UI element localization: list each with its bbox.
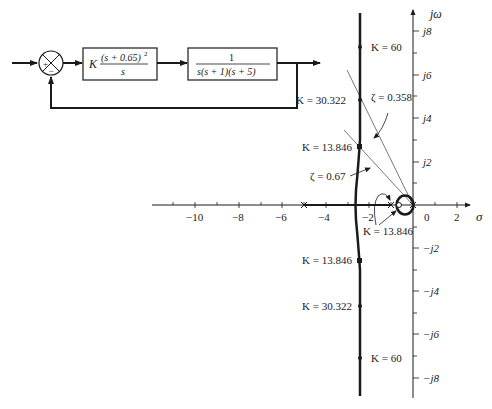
k60-upper-label: K = 60 xyxy=(371,41,402,53)
zeta-0358-label: ζ = 0.358 xyxy=(371,91,413,104)
jw-label: jω xyxy=(428,7,442,21)
double-zero-marker xyxy=(397,203,402,208)
svg-text:−j6: −j6 xyxy=(423,328,439,340)
k13-upper-label: K = 13.846 xyxy=(302,141,352,153)
k13-lower-label: K = 13.846 xyxy=(302,254,352,266)
svg-text:−4: −4 xyxy=(318,211,330,223)
sigma-label: σ xyxy=(476,209,483,224)
zeta-067-line xyxy=(344,130,413,205)
plus-sign: + xyxy=(43,59,48,69)
root-locus-figure: + − K (s + 0.65) 2 s 1 s(s + 1)(s + 5) xyxy=(0,0,492,409)
k30-upper-label: K = 30.322 xyxy=(296,94,346,106)
minus-sign: − xyxy=(49,66,54,76)
svg-text:j6: j6 xyxy=(421,69,432,81)
controller-exponent: 2 xyxy=(144,50,148,58)
block-diagram: + − K (s + 0.65) 2 s 1 s(s + 1)(s + 5) xyxy=(12,48,320,108)
svg-text:−8: −8 xyxy=(232,211,244,223)
k30-lower-label: K = 30.322 xyxy=(302,300,352,312)
svg-text:−2: −2 xyxy=(362,211,374,223)
k60-lower-label: K = 60 xyxy=(371,352,402,364)
svg-text:−j2: −j2 xyxy=(423,242,439,254)
svg-text:j4: j4 xyxy=(421,112,432,124)
zeta-067-label: ζ = 0.67 xyxy=(310,170,346,183)
sigma-tick-labels: −10 −8 −6 −4 −2 0 2 σ xyxy=(186,209,483,224)
svg-text:−j8: −j8 xyxy=(423,372,439,384)
plant-block: 1 s(s + 1)(s + 5) xyxy=(188,48,277,80)
jw-tick-labels: jω j8 j6 j4 j2 −j2 −j4 −j6 −j8 xyxy=(421,7,442,384)
k13-real-axis-label: K = 13.846 xyxy=(363,225,413,237)
svg-text:2: 2 xyxy=(454,211,460,223)
controller-gain: K xyxy=(88,57,98,71)
plant-denominator: s(s + 1)(s + 5) xyxy=(197,66,256,78)
summing-junction: + − xyxy=(39,51,63,76)
controller-denominator: s xyxy=(121,66,125,77)
svg-text:j2: j2 xyxy=(421,156,432,168)
svg-text:−6: −6 xyxy=(275,211,287,223)
svg-text:−10: −10 xyxy=(186,211,204,223)
svg-text:0: 0 xyxy=(424,211,430,223)
controller-block: K (s + 0.65) 2 s xyxy=(83,48,157,80)
controller-numerator: (s + 0.65) xyxy=(101,52,141,64)
svg-text:j8: j8 xyxy=(421,25,432,37)
svg-text:−j4: −j4 xyxy=(423,285,439,297)
plant-numerator: 1 xyxy=(229,52,234,63)
